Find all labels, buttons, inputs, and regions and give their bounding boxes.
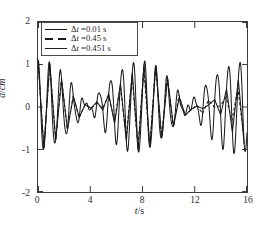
- legend-line-solid-icon: [45, 25, 67, 34]
- legend-rest-0: =0.01 s: [79, 24, 107, 34]
- y-tick-label-0: 0: [8, 103, 30, 113]
- y-tick-label-1: 1: [8, 60, 30, 70]
- series-line-dt-0p01: [38, 60, 247, 154]
- data-series-group: [38, 60, 247, 154]
- legend-box: Δt =0.01 s Δt =0.45 s Δt =0.451 s: [41, 22, 138, 56]
- y-axis-label: d/cm: [0, 79, 7, 98]
- legend-item-2: Δt =0.451 s: [45, 44, 135, 53]
- scan-artifact-strip: · ·· ·· · ····· ············: [0, 0, 279, 7]
- legend-line-dashed-icon: [45, 34, 67, 43]
- scan-artifact-text: · ·· ·· · ····· ············: [0, 0, 81, 4]
- y-tick-label-2: 2: [8, 17, 30, 27]
- legend-rest-1: =0.45 s: [79, 33, 107, 43]
- y-tick-label-neg1: -1: [8, 146, 30, 156]
- figure-container: · ·· ·· · ····· ············ 2 1 0 -1 -2…: [0, 0, 279, 228]
- y-axis-label-var: d: [0, 93, 7, 98]
- legend-label-2: Δt =0.451 s: [71, 44, 111, 53]
- y-axis-label-unit: /cm: [0, 79, 7, 93]
- legend-line-solid2-icon: [45, 44, 67, 53]
- x-axis-label: t/s: [0, 205, 279, 216]
- legend-rest-2: =0.451 s: [79, 43, 111, 53]
- x-axis-label-unit: /s: [138, 205, 145, 216]
